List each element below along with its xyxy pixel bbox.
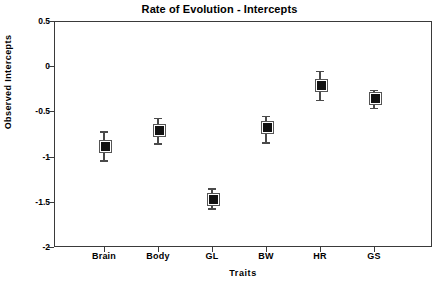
x-tick-label-gs: GS xyxy=(344,251,404,261)
error-bar-cap-lower xyxy=(262,142,270,144)
marker-square xyxy=(262,122,273,133)
y-tick-mark xyxy=(48,247,54,248)
plot-area xyxy=(54,21,432,247)
y-tick-label: 0 xyxy=(4,61,50,71)
chart-title: Rate of Evolution - Intercepts xyxy=(0,3,439,15)
x-tick-label-body: Body xyxy=(128,251,188,261)
error-bar-cap-upper xyxy=(100,131,108,133)
error-bar-cap-upper xyxy=(370,90,378,92)
error-bar-cap-lower xyxy=(316,100,324,102)
y-tick-label: -1 xyxy=(4,152,50,162)
error-bar-cap-upper xyxy=(154,118,162,120)
y-tick-label: 0.5 xyxy=(4,16,50,26)
y-tick-mark xyxy=(48,111,54,112)
marker-square xyxy=(100,141,111,152)
x-tick-label-brain: Brain xyxy=(74,251,134,261)
y-tick-label: -1.5 xyxy=(4,197,50,207)
x-axis-title: Traits xyxy=(54,268,432,278)
y-tick-label: -0.5 xyxy=(4,106,50,116)
marker-square xyxy=(208,194,219,205)
error-bar-cap-lower xyxy=(208,208,216,210)
y-tick-mark xyxy=(48,21,54,22)
error-bar-cap-lower xyxy=(154,143,162,145)
error-bar-cap-upper xyxy=(262,116,270,118)
chart-figure: Rate of Evolution - Intercepts Observed … xyxy=(0,0,439,286)
x-tick-label-bw: BW xyxy=(236,251,296,261)
marker-square xyxy=(370,93,381,104)
marker-square xyxy=(316,80,327,91)
y-tick-mark xyxy=(48,202,54,203)
marker-square xyxy=(154,125,165,136)
error-bar-cap-lower xyxy=(370,108,378,110)
y-tick-label: -2 xyxy=(4,242,50,252)
x-tick-label-gl: GL xyxy=(182,251,242,261)
y-tick-mark xyxy=(48,157,54,158)
x-tick-label-hr: HR xyxy=(290,251,350,261)
error-bar-cap-lower xyxy=(100,160,108,162)
error-bar-cap-upper xyxy=(316,71,324,73)
y-axis-tick-labels: 0.50-0.5-1-1.5-2 xyxy=(0,0,50,286)
y-tick-mark xyxy=(48,66,54,67)
error-bar-cap-upper xyxy=(208,188,216,190)
